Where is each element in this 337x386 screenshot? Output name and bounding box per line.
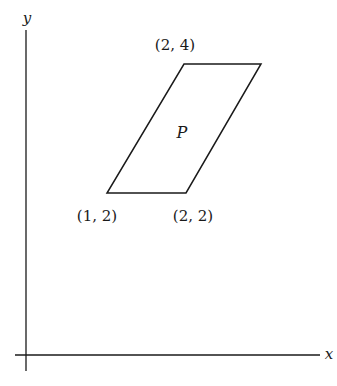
vertex-label-top: (2, 4) [155,36,195,54]
vertex-label-bottom-left: (1, 2) [77,207,117,225]
diagram-svg [0,0,337,386]
region-label-p: P [177,123,188,142]
x-axis-label: x [325,345,333,363]
vertex-label-bottom-right: (2, 2) [173,207,213,225]
diagram-canvas: y x P (2, 4) (1, 2) (2, 2) [0,0,337,386]
y-axis-label: y [23,9,31,27]
